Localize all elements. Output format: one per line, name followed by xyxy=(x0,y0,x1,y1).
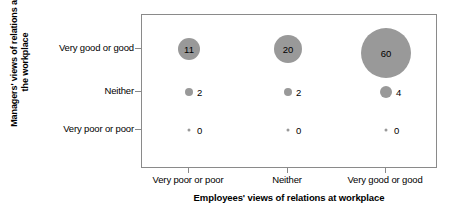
bubble-label-verypoor-neither: 2 xyxy=(197,87,202,98)
bubble-neither-verypoor xyxy=(287,129,290,132)
bubble-verypoor-verypoor xyxy=(188,129,191,132)
bubble-verypoor-neither xyxy=(185,88,193,96)
y-axis-title-line-1: Managers' views of relations at xyxy=(9,0,20,142)
bubble-label-neither-verypoor: 0 xyxy=(296,125,301,136)
bubble-label-verypoor-verygood: 11 xyxy=(184,44,194,55)
bubble-label-verypoor-verypoor: 0 xyxy=(197,125,202,136)
x-tick-label-very-good-or-good: Very good or good xyxy=(347,174,422,185)
y-tick-label-neither: Neither xyxy=(0,85,134,96)
x-tick-mark-very-poor-or-poor xyxy=(188,168,189,173)
y-axis-title: Managers' views of relations at the work… xyxy=(9,0,43,142)
x-tick-label-neither: Neither xyxy=(272,174,302,185)
y-tick-label-very-good-or-good: Very good or good xyxy=(0,42,134,53)
bubble-label-verygood-neither: 4 xyxy=(396,87,401,98)
plot-area: 11 20 60 2 2 4 0 0 0 xyxy=(141,14,437,168)
bubble-label-verygood-verygood: 60 xyxy=(381,48,392,59)
x-tick-label-very-poor-or-poor: Very poor or poor xyxy=(153,174,224,185)
bubble-verygood-verypoor xyxy=(385,129,388,132)
bubble-chart: Managers' views of relations at the work… xyxy=(0,0,458,212)
bubble-label-verygood-verypoor: 0 xyxy=(394,125,399,136)
bubble-label-neither-neither: 2 xyxy=(296,87,301,98)
y-axis-title-line-2: the workplace xyxy=(20,0,31,142)
x-axis-title: Employees' views of relations at workpla… xyxy=(141,192,437,203)
x-tick-mark-neither xyxy=(287,168,288,173)
bubble-neither-neither xyxy=(284,88,292,96)
bubble-verygood-neither xyxy=(380,86,392,98)
y-tick-label-very-poor-or-poor: Very poor or poor xyxy=(0,123,134,134)
x-tick-mark-very-good-or-good xyxy=(385,168,386,173)
bubble-label-neither-verygood: 20 xyxy=(283,44,294,55)
